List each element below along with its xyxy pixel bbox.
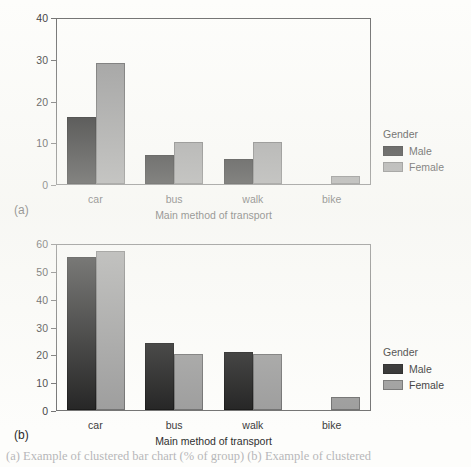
bar-groups-b [57,245,370,410]
y-tick-b-40: 40 [36,294,48,306]
legend-label-female-b: Female [409,379,444,391]
legend-entry-male-a: Male [383,145,444,157]
legend-entry-female-a: Female [383,161,444,173]
x-axis-label-b: Main method of transport [56,435,371,447]
bar-car-female [96,63,125,184]
page-caption-text: (a) Example of clustered bar chart (% of… [6,451,371,464]
x-axis-a: carbuswalkbike Main method of transport [56,186,371,221]
bar-bus-female [174,142,203,184]
x-category-label-bus: bus [135,186,214,205]
bar-walk-male [224,352,253,410]
legend-label-male-a: Male [409,145,432,157]
bar-group-car [57,245,135,410]
bar-walk-female [253,354,282,410]
plot-area-b [56,244,371,411]
x-category-labels-a: carbuswalkbike [56,186,371,205]
y-tick-b-60: 60 [36,238,48,250]
page-caption-cutoff: (a) Example of clustered bar chart (% of… [0,451,471,467]
bar-groups-a [57,19,370,184]
x-category-label-car: car [56,412,135,431]
plot-area-a [56,18,371,185]
bar-car-male [67,117,96,184]
bar-group-car [57,19,135,184]
bar-car-female [96,251,125,410]
y-tick-b-30: 30 [36,322,48,334]
bar-group-walk [214,245,292,410]
x-axis-label-a: Main method of transport [56,209,371,221]
legend-label-male-b: Male [409,363,432,375]
panel-b: Percent 0102030405060 carbuswalkbike Mai… [0,228,471,446]
bar-group-bus [135,19,213,184]
y-tick-a-40: 40 [36,12,48,24]
bar-bus-male [145,343,174,410]
y-tick-a-0: 0 [42,179,48,191]
figure-page: Count 010203040 carbuswalkbike Main meth… [0,0,471,467]
legend-swatch-female-icon [383,162,403,172]
y-tick-b-20: 20 [36,349,48,361]
y-tick-b-50: 50 [36,266,48,278]
y-tick-a-10: 10 [36,137,48,149]
x-category-label-walk: walk [214,186,293,205]
legend-title-b: Gender [383,346,444,358]
bar-group-bus [135,245,213,410]
bar-car-male [67,257,96,410]
bar-bus-female [174,354,203,410]
panel-tag-b: (b) [14,428,29,442]
bar-group-bike [292,245,370,410]
legend-swatch-female-icon [383,380,403,390]
legend-label-female-a: Female [409,161,444,173]
legend-entry-male-b: Male [383,363,444,375]
bar-group-bike [292,19,370,184]
y-axis-b: Percent 0102030405060 [0,244,56,411]
y-tick-b-0: 0 [42,405,48,417]
legend-swatch-male-icon [383,146,403,156]
x-category-labels-b: carbuswalkbike [56,412,371,431]
legend-title-a: Gender [383,128,444,140]
bar-walk-female [253,142,282,184]
y-tick-b-10: 10 [36,377,48,389]
legend-b: Gender Male Female [383,346,444,395]
bar-walk-male [224,159,253,184]
panel-a: Count 010203040 carbuswalkbike Main meth… [0,0,471,228]
x-category-label-bike: bike [292,186,371,205]
x-category-label-bike: bike [292,412,371,431]
bar-bus-male [145,155,174,184]
legend-a: Gender Male Female [383,128,444,177]
y-tick-a-20: 20 [36,96,48,108]
x-category-label-walk: walk [214,412,293,431]
bar-bike-female [331,397,360,410]
x-axis-b: carbuswalkbike Main method of transport [56,412,371,447]
y-tick-a-30: 30 [36,54,48,66]
legend-entry-female-b: Female [383,379,444,391]
bar-group-walk [214,19,292,184]
bar-bike-female [331,176,360,184]
x-category-label-car: car [56,186,135,205]
y-axis-a: Count 010203040 [0,18,56,185]
panel-tag-a: (a) [14,203,29,217]
x-category-label-bus: bus [135,412,214,431]
legend-swatch-male-icon [383,364,403,374]
